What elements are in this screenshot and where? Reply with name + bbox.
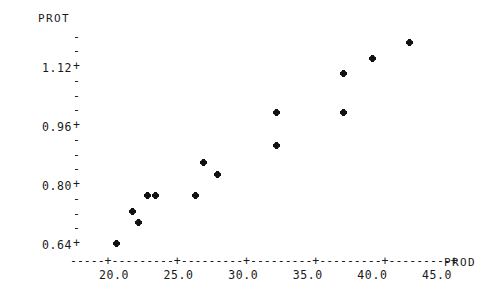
y-axis-tick-label: 1.12: [28, 61, 72, 75]
y-axis-tick-mark: +: [73, 238, 80, 250]
y-axis-minor-tick: -: [73, 76, 80, 88]
y-axis-minor-tick: -: [73, 105, 80, 117]
y-axis-minor-tick: -: [73, 32, 80, 44]
y-axis-title: PROT: [38, 12, 70, 25]
y-axis-minor-tick: -: [73, 223, 80, 235]
x-axis-tick-label: 40.0: [357, 268, 387, 282]
y-axis-tick-label: 0.96: [28, 120, 72, 134]
y-axis-tick-mark: +: [73, 61, 80, 73]
data-point: [152, 192, 159, 199]
x-axis-tick-label: 35.0: [293, 268, 323, 282]
data-point: [200, 159, 207, 166]
data-point: [129, 208, 136, 215]
data-point: [144, 192, 151, 199]
data-point: [340, 70, 347, 77]
y-axis-tick-label: 0.64: [28, 238, 72, 252]
data-point: [214, 171, 221, 178]
data-point: [273, 142, 280, 149]
data-point: [273, 109, 280, 116]
y-axis-minor-tick: -: [73, 150, 80, 162]
y-axis-minor-tick: -: [73, 209, 80, 221]
y-axis-minor-tick: -: [73, 194, 80, 206]
y-axis-tick-mark: +: [73, 120, 80, 132]
x-axis-line: -----+---------+---------+---------+----…: [70, 256, 458, 268]
x-axis-tick-label: 25.0: [164, 268, 194, 282]
data-point: [192, 192, 199, 199]
x-axis-tick-label: 45.0: [422, 268, 452, 282]
scatter-plot: PROT 1.12+0.96+0.80+0.64+----------- ---…: [0, 0, 496, 302]
data-point: [406, 39, 413, 46]
y-axis-tick-label: 0.80: [28, 179, 72, 193]
x-axis-tick-label: 20.0: [99, 268, 129, 282]
y-axis-minor-tick: -: [73, 135, 80, 147]
y-axis-minor-tick: -: [73, 164, 80, 176]
y-axis-tick-mark: +: [73, 179, 80, 191]
data-point: [369, 55, 376, 62]
x-axis-tick-label: 30.0: [228, 268, 258, 282]
data-point: [135, 219, 142, 226]
y-axis-minor-tick: -: [73, 91, 80, 103]
data-point: [113, 240, 120, 247]
data-point: [340, 109, 347, 116]
y-axis-minor-tick: -: [73, 46, 80, 58]
